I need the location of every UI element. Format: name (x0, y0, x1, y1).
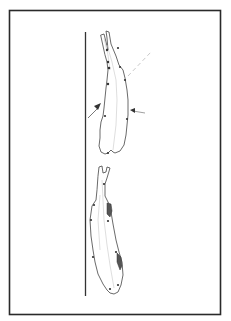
contact-point (108, 67, 111, 70)
contact-point (92, 256, 94, 258)
left-arrow-icon (94, 103, 101, 110)
contact-point (109, 288, 111, 290)
upper-animal-outline (99, 31, 128, 154)
contact-point (106, 49, 108, 51)
contact-point (117, 284, 119, 286)
contact-point (103, 183, 105, 185)
contact-point (90, 219, 92, 221)
lower-animal (90, 166, 123, 294)
contact-point (104, 115, 106, 117)
upper-animal (88, 31, 151, 154)
contact-point (93, 204, 95, 206)
lower-animal-outline (90, 166, 123, 294)
diagram-figure (0, 0, 231, 321)
contact-point (107, 220, 109, 222)
contact-point (115, 251, 117, 253)
left-arrow-shaft (88, 108, 98, 118)
contact-point (117, 47, 119, 49)
contact-point (124, 79, 126, 81)
contact-point (107, 61, 109, 63)
contact-point (126, 118, 128, 120)
contact-point (107, 83, 109, 85)
right-arrow-icon (130, 108, 135, 113)
dashed-guide-line (128, 52, 151, 76)
contact-point (107, 152, 109, 154)
contact-point (119, 66, 121, 68)
